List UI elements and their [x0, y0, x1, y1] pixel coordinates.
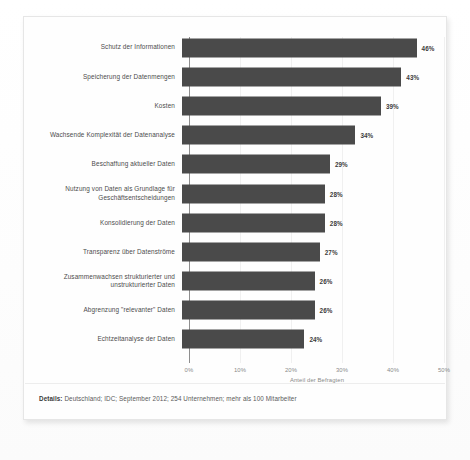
bar[interactable] — [182, 155, 330, 174]
bar[interactable] — [182, 242, 320, 261]
chart-plot-area: Schutz der Informationen46%Speicherung d… — [24, 23, 446, 375]
bar-zone: 24% — [182, 325, 446, 354]
bar[interactable] — [182, 213, 325, 232]
chart-row: Schutz der Informationen46% — [24, 33, 446, 62]
category-label: Transparenz über Datenströme — [24, 248, 182, 256]
bar-value-label: 24% — [309, 336, 322, 343]
x-tick-0: 0% — [185, 367, 194, 373]
bar-value-label: 26% — [320, 307, 333, 314]
chart-card: Schutz der Informationen46%Speicherung d… — [23, 16, 447, 420]
chart-row: Nutzung von Daten als Grundlage für Gesc… — [24, 179, 446, 208]
footer-details-label: Details: — [39, 395, 63, 402]
bar-zone: 28% — [182, 208, 446, 237]
bar-value-label: 43% — [406, 73, 419, 80]
category-label: Nutzung von Daten als Grundlage für Gesc… — [24, 185, 182, 201]
x-tick-50: 50% — [438, 367, 450, 373]
bar-zone: 28% — [182, 179, 446, 208]
category-label: Kosten — [24, 102, 182, 110]
bar-value-label: 34% — [360, 132, 373, 139]
category-label: Konsolidierung der Daten — [24, 219, 182, 227]
chart-row: Echtzeitanalyse der Daten24% — [24, 325, 446, 354]
bar-zone: 29% — [182, 150, 446, 179]
bar[interactable] — [182, 126, 355, 145]
x-tick-40: 40% — [387, 367, 399, 373]
chart-row: Zusammenwachsen strukturierter und unstr… — [24, 267, 446, 296]
category-label: Echtzeitanalyse der Daten — [24, 335, 182, 343]
category-label: Schutz der Informationen — [24, 43, 182, 51]
bar[interactable] — [182, 38, 417, 57]
chart-row: Beschaffung aktueller Daten29% — [24, 150, 446, 179]
footer-details: Details: Deutschland; IDC; September 201… — [39, 395, 439, 402]
bar-zone: 46% — [182, 33, 446, 62]
chart-row: Abgrenzung "relevanter" Daten26% — [24, 296, 446, 325]
x-tick-10: 10% — [234, 367, 246, 373]
bar-value-label: 29% — [335, 161, 348, 168]
chart-row: Konsolidierung der Daten28% — [24, 208, 446, 237]
bar-value-label: 26% — [320, 278, 333, 285]
bar-value-label: 28% — [330, 190, 343, 197]
bar-value-label: 27% — [325, 248, 338, 255]
category-label: Abgrenzung "relevanter" Daten — [24, 306, 182, 314]
chart-row: Transparenz über Datenströme27% — [24, 237, 446, 266]
bar[interactable] — [182, 96, 381, 115]
bar-zone: 39% — [182, 91, 446, 120]
bar[interactable] — [182, 67, 401, 86]
x-tick-20: 20% — [285, 367, 297, 373]
bar-rows: Schutz der Informationen46%Speicherung d… — [24, 33, 446, 354]
chart-row: Wachsende Komplexität der Datenanalyse34… — [24, 121, 446, 150]
chart-row: Speicherung der Datenmengen43% — [24, 62, 446, 91]
bar[interactable] — [182, 184, 325, 203]
bar-value-label: 46% — [422, 44, 435, 51]
bar-zone: 26% — [182, 296, 446, 325]
category-label: Beschaffung aktueller Daten — [24, 160, 182, 168]
page-caption-strip — [14, 444, 444, 456]
bar-zone: 34% — [182, 121, 446, 150]
footer-divider — [25, 383, 445, 384]
chart-row: Kosten39% — [24, 91, 446, 120]
bar[interactable] — [182, 272, 315, 291]
bar[interactable] — [182, 301, 315, 320]
category-label: Wachsende Komplexität der Datenanalyse — [24, 131, 182, 139]
x-axis: 0% 10% 20% 30% 40% 50% Anteil der Befrag… — [24, 363, 446, 385]
footer-details-text: Deutschland; IDC; September 2012; 254 Un… — [63, 395, 297, 402]
bar-zone: 27% — [182, 237, 446, 266]
bar-zone: 43% — [182, 62, 446, 91]
bar[interactable] — [182, 330, 304, 349]
bar-value-label: 39% — [386, 102, 399, 109]
category-label: Zusammenwachsen strukturierter und unstr… — [24, 273, 182, 289]
category-label: Speicherung der Datenmengen — [24, 73, 182, 81]
bar-zone: 26% — [182, 267, 446, 296]
x-tick-30: 30% — [336, 367, 348, 373]
bar-value-label: 28% — [330, 219, 343, 226]
